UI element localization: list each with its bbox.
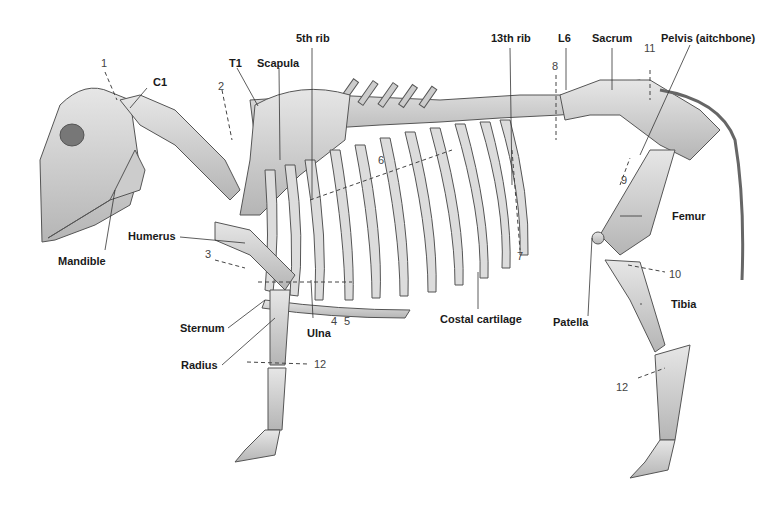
label-femur: Femur — [672, 210, 706, 222]
hind-hoof — [630, 440, 675, 478]
marker-3: 3 — [205, 248, 211, 260]
pelvis — [560, 80, 720, 160]
marker-2: 2 — [218, 80, 224, 92]
skull — [40, 88, 140, 242]
marker-8: 8 — [552, 60, 558, 72]
label-humerus: Humerus — [128, 230, 176, 242]
marker-1: 1 — [101, 57, 107, 69]
label-5th-rib: 5th rib — [296, 32, 330, 44]
marker-12-hind: 12 — [616, 381, 628, 393]
marker-11: 11 — [644, 42, 655, 54]
marker-10: 10 — [669, 268, 681, 280]
tibia — [605, 260, 665, 352]
label-sacrum: Sacrum — [592, 32, 632, 44]
front-hoof — [235, 430, 280, 462]
pig-skeleton-illustration — [0, 0, 769, 512]
label-radius: Radius — [181, 359, 218, 371]
label-ulna: Ulna — [307, 327, 331, 339]
label-tibia: Tibia — [671, 298, 696, 310]
front-cannon — [268, 368, 286, 430]
label-t1: T1 — [229, 57, 242, 69]
marker-6: 6 — [378, 154, 384, 166]
marker-5: 5 — [344, 315, 350, 327]
marker-4: 4 — [331, 315, 337, 327]
label-costal-cartilage: Costal cartilage — [440, 313, 522, 325]
skeleton-diagram: C1 T1 Scapula 5th rib 13th rib L6 Sacrum… — [0, 0, 769, 512]
label-patella: Patella — [553, 316, 588, 328]
label-pelvis: Pelvis (aitchbone) — [661, 32, 755, 44]
label-c1: C1 — [153, 76, 167, 88]
label-mandible: Mandible — [58, 255, 106, 267]
patella — [592, 232, 604, 244]
humerus — [215, 222, 295, 290]
label-l6: L6 — [558, 32, 571, 44]
marker-9: 9 — [621, 174, 627, 186]
radius — [270, 290, 290, 365]
marker-7: 7 — [517, 250, 523, 262]
label-sternum: Sternum — [180, 322, 225, 334]
hind-cannon — [655, 345, 690, 440]
label-13th-rib: 13th rib — [491, 32, 531, 44]
femur — [600, 150, 675, 255]
label-scapula: Scapula — [257, 57, 299, 69]
marker-12-front: 12 — [314, 358, 326, 370]
